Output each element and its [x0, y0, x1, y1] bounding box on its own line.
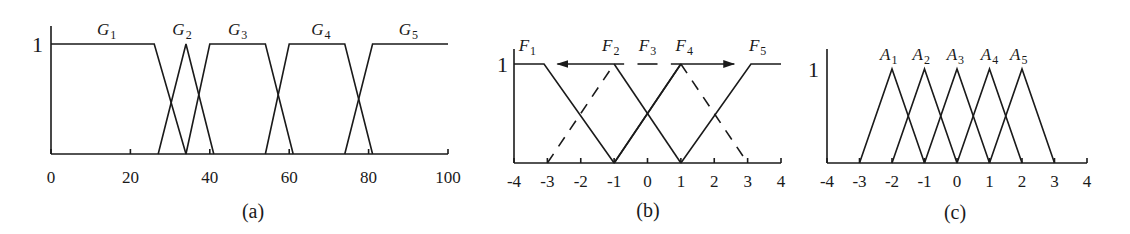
- x-tick-label: 100: [435, 168, 461, 187]
- x-tick-label: 20: [122, 168, 139, 187]
- series-label: F1: [518, 36, 536, 58]
- x-tick-label: 0: [643, 172, 652, 191]
- x-tick-label: 3: [1050, 172, 1059, 191]
- series-a5: [990, 69, 1055, 163]
- panel-c: 1-4-3-2-101234A1A2A3A4A5(c): [808, 45, 1092, 224]
- series-label-subscript: 1: [530, 44, 536, 58]
- x-tick-label: 60: [281, 168, 298, 187]
- series-label: F4: [675, 36, 693, 58]
- panel-caption: (a): [242, 200, 264, 223]
- series-label-subscript: 1: [891, 53, 897, 67]
- series-label: A2: [912, 45, 930, 67]
- series-label-subscript: 1: [110, 28, 116, 42]
- series-g1: [51, 44, 186, 154]
- series-label-subscript: 4: [325, 28, 331, 42]
- y-tick-label: 1: [808, 57, 819, 82]
- series-label-subscript: 5: [412, 28, 418, 42]
- x-tick-label: 4: [1083, 172, 1092, 191]
- figure: 1020406080100G1G2G3G4G5(a) 1-4-3-2-10123…: [0, 0, 1130, 234]
- series-label: A1: [879, 45, 897, 67]
- series-label-subscript: 3: [958, 53, 964, 67]
- series-label-subscript: 5: [760, 44, 766, 58]
- series-label-subscript: 3: [241, 28, 247, 42]
- x-tick-label: -4: [507, 172, 522, 191]
- x-tick-label: 1: [985, 172, 994, 191]
- panel-b: 1-4-3-2-101234F1F2F3F4F5(b): [497, 36, 786, 222]
- series-label: G5: [399, 20, 418, 42]
- series-label-subscript: 4: [687, 44, 693, 58]
- series-a3: [925, 69, 990, 163]
- series-label: A4: [980, 45, 998, 67]
- x-tick-label: -3: [852, 172, 866, 191]
- x-tick-label: -2: [885, 172, 899, 191]
- series-g5: [345, 44, 448, 154]
- series-label-subscript: 2: [924, 53, 930, 67]
- series-label-subscript: 2: [186, 28, 192, 42]
- x-tick-label: 2: [1018, 172, 1027, 191]
- series-label-subscript: 3: [650, 44, 656, 58]
- series-label: A5: [1009, 45, 1027, 67]
- series-label: F5: [748, 36, 766, 58]
- series-label-subscript: 5: [1021, 53, 1027, 67]
- series-f1: [514, 64, 614, 163]
- x-tick-label: -4: [820, 172, 835, 191]
- x-tick-label: 80: [360, 168, 377, 187]
- x-tick-label: 3: [743, 172, 752, 191]
- series-a1: [860, 69, 925, 163]
- x-tick-label: -1: [917, 172, 931, 191]
- x-tick-label: 4: [777, 172, 786, 191]
- series-label: F2: [601, 36, 619, 58]
- series-label: F3: [638, 36, 656, 58]
- y-tick-label: 1: [497, 52, 508, 77]
- series-label: G3: [228, 20, 247, 42]
- series-a2: [892, 69, 957, 163]
- x-tick-label: -2: [574, 172, 588, 191]
- series-label-subscript: 4: [992, 53, 998, 67]
- x-tick-label: -3: [540, 172, 554, 191]
- series-label: G1: [97, 20, 116, 42]
- series-f5: [681, 64, 781, 163]
- panel-a: 1020406080100G1G2G3G4G5(a): [32, 20, 461, 223]
- series-g4: [265, 44, 372, 154]
- series-label: G2: [172, 20, 191, 42]
- y-tick-label: 1: [32, 32, 43, 57]
- x-tick-label: -1: [607, 172, 621, 191]
- series-a4: [957, 69, 1022, 163]
- panel-caption: (b): [636, 199, 659, 222]
- series-label: A3: [946, 45, 964, 67]
- x-tick-label: 1: [677, 172, 686, 191]
- x-tick-label: 0: [47, 168, 56, 187]
- panel-caption: (c): [944, 201, 966, 224]
- x-tick-label: 40: [201, 168, 218, 187]
- x-tick-label: 2: [710, 172, 719, 191]
- x-tick-label: 0: [953, 172, 962, 191]
- series-label: G4: [311, 20, 330, 42]
- series-label-subscript: 2: [613, 44, 619, 58]
